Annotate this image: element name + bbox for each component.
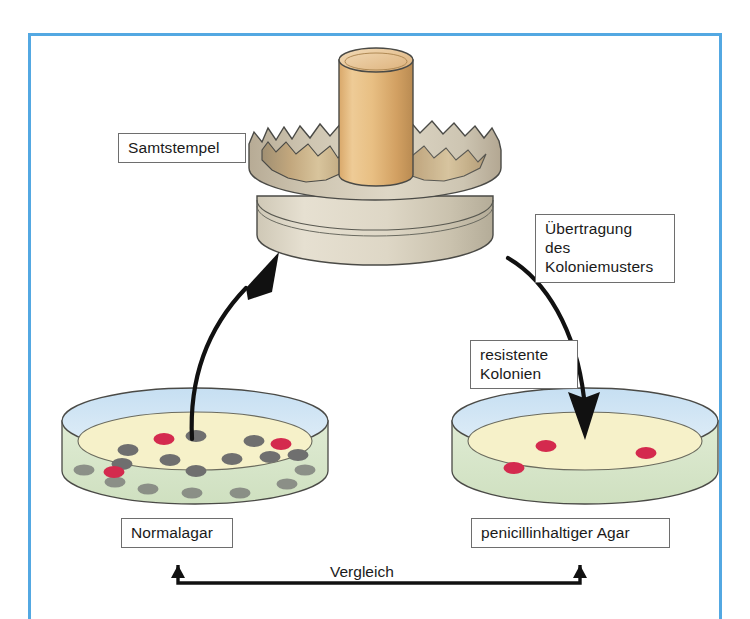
label-samtstempel: Samtstempel [118, 133, 246, 163]
figure-canvas: Samtstempel Übertragung des Koloniemuste… [0, 0, 750, 619]
label-penicillinhaltiger-agar: penicillinhaltiger Agar [471, 518, 670, 548]
label-vergleich: Vergleich [324, 563, 400, 581]
petri-dish-left [62, 388, 328, 504]
label-resistente-kolonien: resistente Kolonien [470, 340, 578, 389]
stamp-handle [339, 60, 413, 186]
velvet-stamp-illustration [249, 48, 501, 265]
label-uebertragung-koloniemuster: Übertragung des Koloniemusters [535, 214, 675, 283]
stamp-handle-top [339, 48, 413, 72]
label-normalagar: Normalagar [121, 518, 233, 548]
